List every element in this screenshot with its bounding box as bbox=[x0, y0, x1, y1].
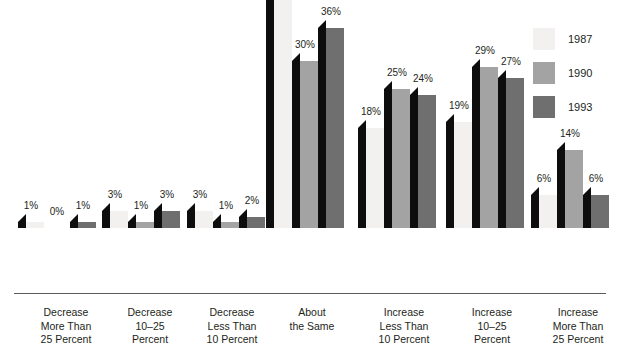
legend-item-1987[interactable]: 1987 bbox=[533, 22, 617, 56]
bar-slot: 1% bbox=[70, 0, 96, 228]
bar-side-face bbox=[70, 222, 78, 228]
category-label-line: 25 Percent bbox=[518, 333, 620, 347]
bar-top-cap bbox=[154, 203, 162, 211]
bar-1990[interactable] bbox=[300, 61, 318, 228]
bar-side-face bbox=[410, 95, 418, 228]
bar-slot: 3% bbox=[154, 0, 180, 228]
bar-value-label: 1% bbox=[219, 200, 233, 211]
bar-group-bars: 1%0%1% bbox=[18, 0, 96, 228]
bar-value-label: 1% bbox=[24, 200, 38, 211]
bar-top-cap bbox=[239, 209, 247, 217]
bar-front-face bbox=[300, 61, 318, 228]
bar-side-face bbox=[128, 222, 136, 228]
bar-side-face bbox=[154, 211, 162, 228]
bar-value-label: 25% bbox=[387, 67, 407, 78]
bar-slot: 3% bbox=[187, 0, 213, 228]
legend-item-1993[interactable]: 1993 bbox=[533, 90, 617, 124]
bar-1990[interactable] bbox=[392, 89, 410, 228]
bar-value-label: 3% bbox=[160, 189, 174, 200]
bar-top-cap bbox=[18, 214, 26, 222]
bar-top-cap bbox=[318, 20, 326, 28]
bar-front-face bbox=[480, 67, 498, 228]
bar-top-cap bbox=[70, 214, 78, 222]
bar-slot: 36% bbox=[318, 0, 344, 228]
bar-front-face bbox=[565, 150, 583, 228]
legend-swatch-icon bbox=[533, 96, 555, 118]
bar-group-bars: 18%25%24% bbox=[358, 0, 436, 228]
bar-slot: 19% bbox=[446, 0, 472, 228]
bar-side-face bbox=[557, 150, 565, 228]
bar-value-label: 6% bbox=[537, 173, 551, 184]
bar-value-label: 3% bbox=[193, 189, 207, 200]
bar-top-cap bbox=[102, 203, 110, 211]
bar-1990[interactable] bbox=[136, 222, 154, 228]
bar-slot: 27% bbox=[498, 0, 524, 228]
bar-1987[interactable] bbox=[110, 211, 128, 228]
bar-value-label: 3% bbox=[108, 189, 122, 200]
bar-1993[interactable] bbox=[247, 217, 265, 228]
bar-top-cap bbox=[583, 187, 591, 195]
bar-side-face bbox=[239, 217, 247, 228]
bar-value-label: 1% bbox=[134, 200, 148, 211]
bar-value-label: 14% bbox=[560, 128, 580, 139]
bar-1987[interactable] bbox=[454, 122, 472, 228]
bar-front-face bbox=[78, 222, 96, 228]
bar-value-label: 0% bbox=[50, 206, 64, 217]
bar-1987[interactable] bbox=[274, 0, 292, 228]
bar-1993[interactable] bbox=[78, 222, 96, 228]
bar-group-bars: 3%1%3% bbox=[102, 0, 180, 228]
bar-slot: 24% bbox=[410, 0, 436, 228]
bar-value-label: 19% bbox=[449, 100, 469, 111]
bar-front-face bbox=[366, 128, 384, 228]
bar-value-label: 29% bbox=[475, 45, 495, 56]
bar-top-cap bbox=[358, 120, 366, 128]
bar-1987[interactable] bbox=[195, 211, 213, 228]
bar-front-face bbox=[591, 195, 609, 228]
bar-1993[interactable] bbox=[326, 28, 344, 228]
bar-1993[interactable] bbox=[162, 211, 180, 228]
bar-value-label: 24% bbox=[413, 73, 433, 84]
bar-front-face bbox=[392, 89, 410, 228]
bar-front-face bbox=[247, 217, 265, 228]
bar-1987[interactable] bbox=[366, 128, 384, 228]
bar-1987[interactable] bbox=[539, 195, 557, 228]
bar-slot: 25% bbox=[384, 0, 410, 228]
category-label-line: More Than bbox=[518, 320, 620, 334]
bar-1990[interactable] bbox=[565, 150, 583, 228]
plot-area: 1%0%1%3%1%3%3%1%2%46%30%36%18%25%24%19%2… bbox=[0, 0, 620, 296]
category-label: IncreaseMore Than25 Percent bbox=[518, 306, 620, 347]
bar-1990[interactable] bbox=[480, 67, 498, 228]
bar-value-label: 1% bbox=[76, 200, 90, 211]
bar-top-cap bbox=[557, 142, 565, 150]
bar-slot: 46% bbox=[266, 0, 292, 228]
bar-slot: 18% bbox=[358, 0, 384, 228]
bar-slot: 1% bbox=[128, 0, 154, 228]
bar-1987[interactable] bbox=[26, 222, 44, 228]
bar-side-face bbox=[18, 222, 26, 228]
legend-swatch-icon bbox=[533, 28, 555, 50]
bar-top-cap bbox=[384, 81, 392, 89]
bar-1993[interactable] bbox=[418, 95, 436, 228]
bar-chart: 1%0%1%3%1%3%3%1%2%46%30%36%18%25%24%19%2… bbox=[0, 0, 620, 361]
bar-value-label: 18% bbox=[361, 106, 381, 117]
bar-top-cap bbox=[531, 187, 539, 195]
bar-1993[interactable] bbox=[591, 195, 609, 228]
bar-group-bars: 19%29%27% bbox=[446, 0, 524, 228]
bar-top-cap bbox=[213, 214, 221, 222]
bar-side-face bbox=[472, 67, 480, 228]
bar-1990[interactable] bbox=[221, 222, 239, 228]
bar-slot: 3% bbox=[102, 0, 128, 228]
legend-item-1990[interactable]: 1990 bbox=[533, 56, 617, 90]
bar-side-face bbox=[446, 122, 454, 228]
bar-value-label: 36% bbox=[321, 6, 341, 17]
bar-side-face bbox=[266, 0, 274, 228]
bar-group-bars: 46%30%36% bbox=[266, 0, 344, 228]
bar-1993[interactable] bbox=[506, 78, 524, 228]
bar-value-label: 2% bbox=[245, 195, 259, 206]
chart-legend: 198719901993 bbox=[533, 22, 617, 124]
bar-front-face bbox=[221, 222, 239, 228]
legend-label: 1993 bbox=[568, 101, 592, 113]
bar-side-face bbox=[358, 128, 366, 228]
bar-front-face bbox=[274, 0, 292, 228]
bar-slot: 2% bbox=[239, 0, 265, 228]
